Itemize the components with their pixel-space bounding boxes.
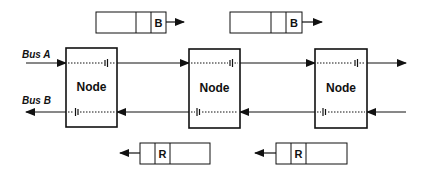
node-2: Node [189, 49, 240, 128]
dual-bus-diagram: B B Bus A Bus B Node [0, 0, 426, 178]
packet-r-2: R [255, 143, 347, 164]
node-3: Node [315, 49, 367, 128]
node-1: Node [66, 48, 117, 127]
node-label: Node [200, 81, 230, 95]
bus-a-label: Bus A [22, 49, 51, 60]
bus-b-label: Bus B [22, 95, 51, 106]
packet-label: R [159, 148, 167, 160]
packet-label: R [295, 148, 303, 160]
packet-r-1: R [120, 143, 210, 164]
packet-b-1: B [96, 12, 184, 33]
node-label: Node [77, 80, 107, 94]
packet-b-2: B [230, 12, 322, 33]
node-label: Node [326, 81, 356, 95]
packet-label: B [290, 17, 298, 29]
packet-label: B [155, 17, 163, 29]
